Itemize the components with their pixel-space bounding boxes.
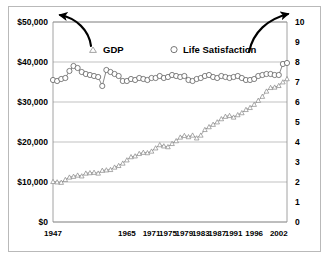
right-axis-tick-label: 2 bbox=[295, 177, 300, 187]
left-axis-tick-labels: $0$10,000$20,000$30,000$40,000$50,000 bbox=[17, 17, 48, 227]
right-axis-tick-label: 8 bbox=[295, 57, 300, 67]
dual-axis-time-series-chart: $0$10,000$20,000$30,000$40,000$50,000 01… bbox=[0, 0, 329, 260]
right-axis-tick-label: 10 bbox=[295, 17, 305, 27]
data-point-marker bbox=[63, 75, 68, 80]
left-axis-tick-label: $40,000 bbox=[17, 57, 48, 67]
right-axis-tick-label: 4 bbox=[295, 137, 300, 147]
legend-item-label-life-satisfaction: Life Satisfaction bbox=[183, 44, 257, 55]
data-point-marker bbox=[96, 74, 101, 79]
right-axis-tick-label: 1 bbox=[295, 197, 300, 207]
x-axis-tick-label: 1996 bbox=[245, 229, 263, 238]
legend-item-life-satisfaction: Life Satisfaction bbox=[171, 44, 257, 55]
right-axis-tick-labels: 012345678910 bbox=[295, 17, 305, 227]
data-point-marker bbox=[284, 60, 289, 65]
chart-figure: $0$10,000$20,000$30,000$40,000$50,000 01… bbox=[0, 0, 329, 260]
x-axis-tick-labels: 1947196519711975197919831987199119962002 bbox=[44, 229, 288, 238]
right-axis-tick-label: 9 bbox=[295, 37, 300, 47]
data-point-marker bbox=[182, 73, 187, 78]
left-axis-tick-label: $50,000 bbox=[17, 17, 48, 27]
legend-item-label-gdp: GDP bbox=[103, 44, 124, 55]
x-axis-tick-label: 1991 bbox=[225, 229, 243, 238]
left-axis-tick-label: $0 bbox=[39, 217, 49, 227]
data-point-marker bbox=[100, 83, 105, 88]
data-point-marker bbox=[67, 68, 72, 73]
circle-open-icon bbox=[171, 47, 177, 53]
data-point-marker bbox=[116, 73, 121, 78]
right-axis-tick-label: 5 bbox=[295, 117, 300, 127]
right-axis-tick-label: 0 bbox=[295, 217, 300, 227]
x-axis-tick-label: 1965 bbox=[118, 229, 136, 238]
right-axis-tick-label: 3 bbox=[295, 157, 300, 167]
data-point-marker bbox=[75, 65, 80, 70]
x-axis-tick-label: 2002 bbox=[270, 229, 288, 238]
data-point-marker bbox=[276, 72, 281, 77]
left-axis-tick-label: $20,000 bbox=[17, 137, 48, 147]
x-axis-tick-label: 1947 bbox=[44, 229, 62, 238]
left-axis-tick-label: $10,000 bbox=[17, 177, 48, 187]
left-axis-tick-label: $30,000 bbox=[17, 97, 48, 107]
right-axis-tick-label: 6 bbox=[295, 97, 300, 107]
right-axis-tick-label: 7 bbox=[295, 77, 300, 87]
